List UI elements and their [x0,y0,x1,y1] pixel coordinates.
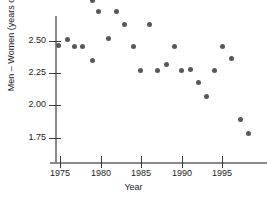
x-tick-label: 1990 [172,168,192,178]
x-tick-mark [101,156,102,168]
x-tick-label: 1985 [131,168,151,178]
data-point [212,68,217,73]
y-tick-label: 2.00 [16,99,46,109]
x-axis-label: Year [0,182,267,192]
x-tick-label: 1980 [91,168,111,178]
data-point [155,68,160,73]
x-tick-mark [141,156,142,168]
data-point [96,9,101,14]
data-point [172,44,177,49]
data-point [246,131,251,136]
y-axis-line [55,16,57,163]
data-point [131,44,136,49]
x-tick-label: 1995 [212,168,232,178]
data-point [90,58,95,63]
data-point [220,44,225,49]
y-tick-mark [49,138,61,139]
data-point [229,56,234,61]
data-point [179,68,184,73]
y-tick-label: 2.25 [16,67,46,77]
x-tick-label: 1975 [50,168,70,178]
data-point [196,80,201,85]
y-tick-mark [49,41,61,42]
x-tick-mark [60,156,61,168]
y-tick-mark [49,73,61,74]
x-tick-mark [222,156,223,168]
x-tick-mark [182,156,183,168]
data-point [147,22,152,27]
scatter-plot: 2.502.252.001.75 19751980198519901995 Me… [0,0,267,200]
data-point [90,0,95,3]
y-tick-mark [49,105,61,106]
data-point [114,9,119,14]
data-point [80,44,85,49]
data-point [72,44,77,49]
x-axis-line [50,162,267,164]
data-point [56,43,61,48]
data-point [138,68,143,73]
y-tick-label: 1.75 [16,132,46,142]
data-point [65,37,70,42]
data-point [106,36,111,41]
data-point [164,62,169,67]
y-tick-label: 2.50 [16,35,46,45]
data-point [188,67,193,72]
data-point [122,22,127,27]
y-axis-label: Men – Women (years of age) [6,0,16,98]
data-point [204,94,209,99]
data-point [238,117,243,122]
